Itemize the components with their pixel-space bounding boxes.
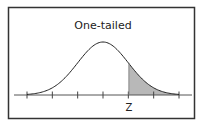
- one-tailed-diagram: One-tailed Z: [0, 0, 207, 126]
- diagram-canvas: One-tailed Z: [0, 0, 207, 126]
- diagram-title: One-tailed: [74, 19, 131, 32]
- z-label: Z: [126, 102, 133, 113]
